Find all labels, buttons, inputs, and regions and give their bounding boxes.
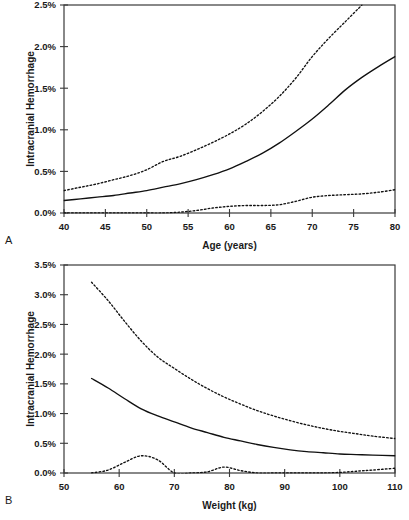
y-tick-label: 3.5%	[34, 260, 56, 270]
panel-a-letter: A	[5, 234, 13, 246]
x-tick-label: 70	[169, 481, 180, 492]
y-tick-label: 0.5%	[34, 438, 56, 449]
plot-frame	[64, 5, 395, 213]
x-tick-label: 50	[59, 481, 70, 492]
curve-upper-confidence-limit	[64, 5, 362, 191]
chart-panel-b: 0.0%0.5%1.0%1.5%2.0%2.5%3.0%3.5%50607080…	[0, 260, 409, 520]
y-tick-label: 1.0%	[34, 408, 56, 419]
y-tick-label: 1.5%	[34, 83, 56, 94]
x-tick-label: 110	[387, 481, 402, 492]
y-tick-label: 2.5%	[34, 319, 56, 330]
y-tick-label: 0.0%	[34, 207, 56, 218]
x-tick-label: 75	[348, 221, 359, 232]
y-axis-title: Intracranial Hemorrhage	[25, 311, 36, 427]
x-axis-title: Age (years)	[202, 240, 256, 251]
panel-b-svg: 0.0%0.5%1.0%1.5%2.0%2.5%3.0%3.5%50607080…	[0, 260, 409, 520]
plot-frame	[64, 265, 395, 473]
x-tick-label: 45	[100, 221, 111, 232]
x-tick-label: 80	[390, 221, 401, 232]
x-tick-label: 60	[114, 481, 125, 492]
y-tick-label: 0.5%	[34, 166, 56, 177]
y-tick-label: 1.5%	[34, 378, 56, 389]
x-tick-label: 100	[332, 481, 348, 492]
panel-b-letter: B	[5, 494, 13, 506]
x-tick-label: 80	[224, 481, 235, 492]
x-tick-label: 65	[266, 221, 277, 232]
y-tick-label: 2.5%	[34, 0, 56, 10]
y-tick-label: 0.0%	[34, 467, 56, 478]
x-tick-label: 70	[307, 221, 318, 232]
curve-predicted	[92, 379, 395, 456]
curve-predicted	[64, 57, 395, 201]
curve-upper-confidence-limit	[92, 282, 395, 438]
y-tick-label: 2.0%	[34, 349, 56, 360]
figure-container: 0.0%0.5%1.0%1.5%2.0%2.5%4045505560657075…	[0, 0, 409, 520]
x-tick-label: 40	[59, 221, 70, 232]
x-tick-label: 50	[141, 221, 152, 232]
x-axis-title: Weight (kg)	[202, 500, 256, 511]
y-axis-title: Intracranial Hemorrhage	[25, 51, 36, 167]
y-tick-label: 2.0%	[34, 41, 56, 52]
chart-panel-a: 0.0%0.5%1.0%1.5%2.0%2.5%4045505560657075…	[0, 0, 409, 260]
y-tick-label: 1.0%	[34, 124, 56, 135]
x-tick-label: 90	[279, 481, 290, 492]
x-tick-label: 60	[224, 221, 235, 232]
x-tick-label: 55	[183, 221, 194, 232]
y-tick-label: 3.0%	[34, 289, 56, 300]
panel-a-svg: 0.0%0.5%1.0%1.5%2.0%2.5%4045505560657075…	[0, 0, 409, 260]
curve-lower-confidence-limit	[92, 456, 395, 474]
